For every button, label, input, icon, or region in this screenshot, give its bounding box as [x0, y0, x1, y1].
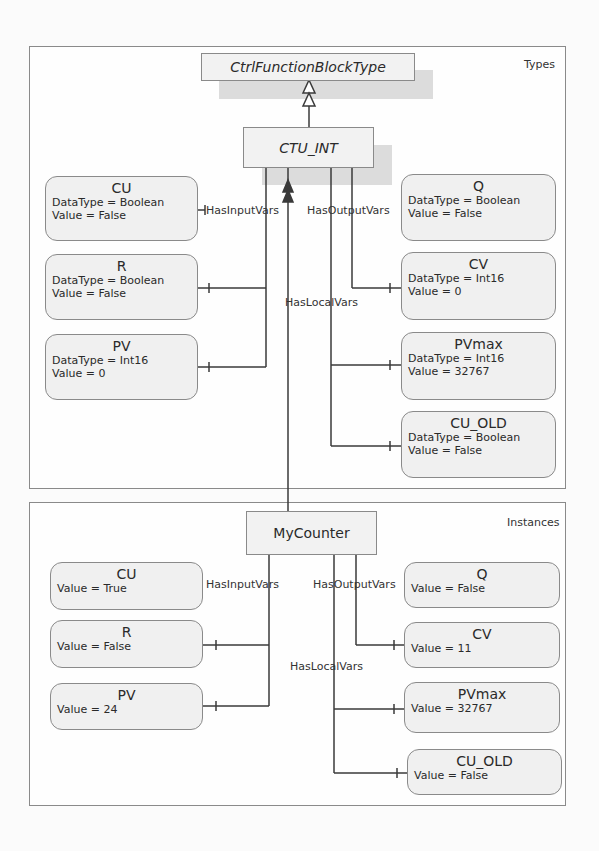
var-value: Value = False — [52, 287, 191, 300]
var-value: Value = False — [411, 582, 553, 595]
instance-var-pv[interactable]: PV Value = 24 — [50, 683, 203, 730]
instances-has-local-vars-label: HasLocalVars — [290, 660, 363, 673]
var-name: PV — [57, 687, 196, 703]
type-var-cu-old[interactable]: CU_OLD DataType = Boolean Value = False — [401, 411, 556, 478]
types-has-input-vars-label: HasInputVars — [206, 204, 279, 217]
instance-var-cv[interactable]: CV Value = 11 — [404, 622, 560, 668]
var-name: R — [52, 258, 191, 274]
var-value: Value = False — [414, 769, 555, 782]
var-name: CU — [52, 180, 191, 196]
var-value: Value = False — [57, 640, 196, 653]
var-datatype: DataType = Boolean — [52, 196, 191, 209]
var-name: CV — [408, 256, 549, 272]
var-value: Value = 0 — [52, 367, 191, 380]
var-datatype: DataType = Int16 — [408, 352, 549, 365]
instance-var-cu-old[interactable]: CU_OLD Value = False — [407, 749, 562, 795]
var-datatype: DataType = Int16 — [408, 272, 549, 285]
instance-var-pvmax[interactable]: PVmax Value = 32767 — [404, 682, 560, 733]
var-name: CU_OLD — [414, 753, 555, 769]
supertype-node[interactable]: CtrlFunctionBlockType — [201, 53, 415, 81]
type-var-cv[interactable]: CV DataType = Int16 Value = 0 — [401, 252, 556, 320]
var-name: CU_OLD — [408, 415, 549, 431]
var-name: Q — [411, 566, 553, 582]
instance-node[interactable]: MyCounter — [246, 511, 377, 555]
var-value: Value = 32767 — [408, 365, 549, 378]
var-value: Value = 11 — [411, 642, 553, 655]
var-value: Value = False — [52, 209, 191, 222]
type-var-r[interactable]: R DataType = Boolean Value = False — [45, 254, 198, 320]
var-name: PV — [52, 338, 191, 354]
var-name: PVmax — [411, 686, 553, 702]
type-var-pvmax[interactable]: PVmax DataType = Int16 Value = 32767 — [401, 332, 556, 400]
type-var-pv[interactable]: PV DataType = Int16 Value = 0 — [45, 334, 198, 400]
var-value: Value = False — [408, 444, 549, 457]
types-has-output-vars-label: HasOutputVars — [307, 204, 390, 217]
instance-var-r[interactable]: R Value = False — [50, 620, 203, 668]
var-name: R — [57, 624, 196, 640]
var-datatype: DataType = Int16 — [52, 354, 191, 367]
var-value: Value = 24 — [57, 703, 196, 716]
instances-has-input-vars-label: HasInputVars — [206, 578, 279, 591]
var-datatype: DataType = Boolean — [408, 194, 549, 207]
var-name: CV — [411, 626, 553, 642]
types-has-local-vars-label: HasLocalVars — [285, 296, 358, 309]
type-var-cu[interactable]: CU DataType = Boolean Value = False — [45, 176, 198, 241]
instances-has-output-vars-label: HasOutputVars — [313, 578, 396, 591]
var-name: CU — [57, 566, 196, 582]
var-name: Q — [408, 178, 549, 194]
type-node[interactable]: CTU_INT — [243, 127, 374, 168]
var-datatype: DataType = Boolean — [408, 431, 549, 444]
var-value: Value = False — [408, 207, 549, 220]
var-value: Value = 32767 — [411, 702, 553, 715]
type-var-q[interactable]: Q DataType = Boolean Value = False — [401, 174, 556, 241]
var-name: PVmax — [408, 336, 549, 352]
var-value: Value = 0 — [408, 285, 549, 298]
var-value: Value = True — [57, 582, 196, 595]
instance-var-cu[interactable]: CU Value = True — [50, 562, 203, 610]
instance-var-q[interactable]: Q Value = False — [404, 562, 560, 608]
var-datatype: DataType = Boolean — [52, 274, 191, 287]
